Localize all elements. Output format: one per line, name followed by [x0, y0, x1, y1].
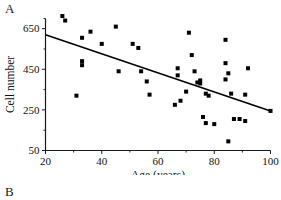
data-point — [204, 121, 208, 125]
panel-label-a: A — [5, 1, 14, 17]
data-point — [207, 94, 211, 98]
data-point — [246, 66, 250, 70]
axis-spines — [46, 19, 271, 151]
y-tick-label: 250 — [23, 104, 40, 116]
data-point — [224, 38, 228, 42]
data-point — [80, 36, 84, 40]
data-point — [145, 79, 149, 83]
y-axis-tick-labels: 50250450650 — [23, 22, 40, 156]
data-point — [176, 73, 180, 77]
data-point — [190, 53, 194, 57]
data-point — [179, 99, 183, 103]
data-point — [201, 115, 205, 119]
data-point — [226, 139, 230, 143]
data-point — [80, 63, 84, 67]
regression-line — [46, 35, 271, 111]
y-tick-label: 50 — [29, 144, 41, 156]
data-point — [184, 90, 188, 94]
data-point — [100, 42, 104, 46]
data-point — [243, 93, 247, 97]
y-axis-label: Cell number — [4, 56, 16, 113]
data-point — [117, 69, 121, 73]
data-point — [136, 46, 140, 50]
panel-label-b: B — [5, 184, 14, 200]
y-tick-label: 450 — [23, 63, 40, 75]
data-points — [60, 14, 272, 143]
x-tick-label: 100 — [262, 155, 279, 167]
data-point — [232, 117, 236, 121]
data-point — [224, 77, 228, 81]
x-axis-label: Age (years) — [131, 169, 185, 176]
data-point — [60, 14, 64, 18]
data-point — [224, 61, 228, 65]
data-point — [89, 30, 93, 34]
data-point — [139, 69, 143, 73]
data-point — [74, 94, 78, 98]
data-point — [114, 25, 118, 29]
x-tick-label: 80 — [209, 155, 221, 167]
data-point — [198, 81, 202, 85]
data-point — [173, 103, 177, 107]
data-point — [238, 117, 242, 121]
data-point — [226, 71, 230, 75]
data-point — [187, 31, 191, 35]
data-point — [176, 66, 180, 70]
y-tick-label: 650 — [23, 22, 40, 34]
x-tick-label: 60 — [153, 155, 165, 167]
data-point — [243, 119, 247, 123]
data-point — [148, 93, 152, 97]
scatter-plot: 20406080100 50250450650 Age (years) Cell… — [0, 0, 281, 175]
data-point — [229, 92, 233, 96]
x-tick-label: 20 — [40, 155, 52, 167]
x-axis-tick-labels: 20406080100 — [40, 155, 279, 167]
data-point — [80, 59, 84, 63]
data-point — [193, 69, 197, 73]
figure-panel-a: A 20406080100 50250450650 Age (years) Ce… — [0, 0, 281, 200]
data-point — [131, 42, 135, 46]
x-tick-label: 40 — [96, 155, 108, 167]
data-point — [63, 19, 67, 23]
data-point — [212, 122, 216, 126]
